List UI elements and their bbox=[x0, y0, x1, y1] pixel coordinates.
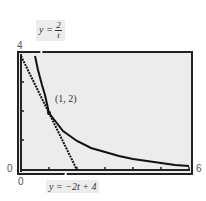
eq1-denominator: t bbox=[57, 31, 60, 40]
plot-frame bbox=[18, 52, 192, 174]
equation-reciprocal-label: y = 2 t bbox=[36, 20, 65, 41]
intersection-label: (1, 2) bbox=[55, 93, 77, 104]
y-max-label: 4 bbox=[17, 40, 23, 51]
x-min-label: 0 bbox=[18, 176, 24, 187]
equation-line-label: y = −2t + 4 bbox=[46, 180, 99, 193]
graph bbox=[0, 0, 206, 201]
eq1-prefix: y = bbox=[39, 24, 53, 35]
y-min-label: 0 bbox=[7, 163, 13, 174]
fraction: 2 t bbox=[55, 21, 62, 40]
x-max-label: 6 bbox=[196, 163, 202, 174]
intersection-point bbox=[47, 111, 51, 115]
